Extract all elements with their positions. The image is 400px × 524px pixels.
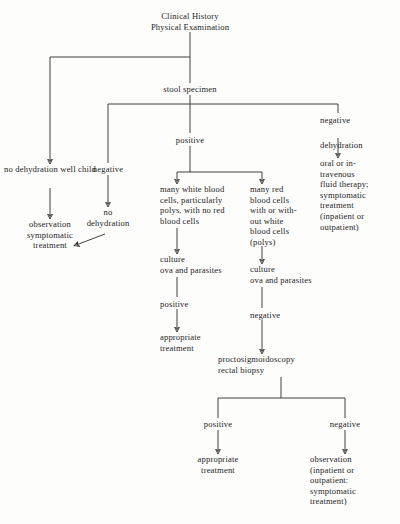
node-fluid-therapy: oral or in- travenous fluid therapy; sym…: [320, 158, 369, 232]
label-negative-culture-rbc: negative: [250, 310, 280, 321]
node-clinical-history: Clinical History Physical Examination: [151, 11, 229, 32]
node-many-white-blood-cells: many white blood cells, particularly pol…: [160, 184, 225, 226]
label-no-dehydration-well-child: no dehydration well child: [4, 164, 96, 175]
flowchart-canvas: Clinical History Physical Examination st…: [0, 0, 400, 524]
node-many-red-blood-cells: many red blood cells with or with- out w…: [250, 184, 297, 248]
label-positive-stool: positive: [176, 135, 204, 146]
label-positive-proc: positive: [204, 419, 232, 430]
node-culture-ova-parasites-rbc: culture ova and parasites: [250, 264, 312, 285]
label-positive-culture-wbc: positive: [160, 299, 188, 310]
label-negative-right: negative: [320, 115, 350, 126]
label-negative-proc: negative: [330, 419, 360, 430]
label-dehydration: dehydration: [320, 140, 363, 151]
node-observation-inpatient-outpatient: observation (inpatient or outpatient: sy…: [310, 454, 356, 507]
node-appropriate-treatment-wbc: appropriate treatment: [160, 332, 201, 353]
node-proctosigmoidoscopy: proctosigmoidoscopy rectal biopsy: [218, 354, 295, 375]
label-negative-left: negative: [93, 164, 123, 175]
node-no-dehydration: no dehydration: [87, 207, 130, 228]
node-appropriate-treatment-proc: appropriate treatment: [198, 454, 239, 475]
node-culture-ova-parasites-wbc: culture ova and parasites: [160, 254, 222, 275]
node-stool-specimen: stool specimen: [163, 84, 216, 95]
node-observation-symptomatic-treatment: observation symptomatic treatment: [27, 219, 73, 251]
